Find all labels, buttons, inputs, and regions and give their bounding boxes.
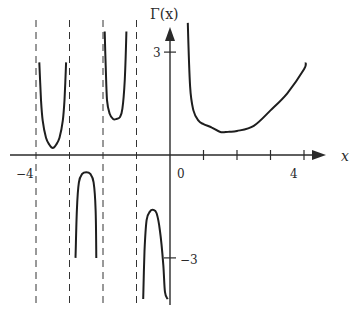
gamma-curve-branch bbox=[188, 23, 306, 132]
asymptote-lines bbox=[36, 20, 137, 308]
x-tick-label-4: 4 bbox=[290, 167, 298, 181]
x-tick-label-0: 0 bbox=[177, 167, 185, 181]
y-axis-arrow-icon bbox=[165, 27, 175, 41]
gamma-curve-branch bbox=[39, 62, 66, 148]
y-axis-label: Γ(x) bbox=[150, 6, 179, 22]
x-axis-label: x bbox=[341, 148, 349, 164]
gamma-function-plot: Γ(x) x −4 0 4 3 −3 bbox=[0, 0, 360, 317]
x-tick-label-minus4: −4 bbox=[16, 167, 34, 181]
x-axis-arrow-icon bbox=[312, 150, 326, 160]
gamma-curve-branch bbox=[143, 210, 168, 299]
gamma-curve-branch bbox=[105, 32, 127, 120]
y-tick-label-3: 3 bbox=[153, 46, 161, 60]
y-tick-label-minus3: −3 bbox=[180, 253, 198, 267]
gamma-curve-branch bbox=[76, 172, 97, 258]
